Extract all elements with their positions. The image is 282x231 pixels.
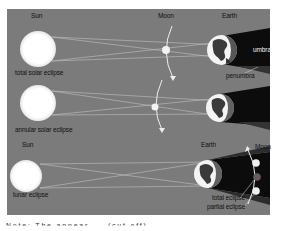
- label-umbra: umbra: [253, 46, 271, 53]
- moon-total-eclipse: [253, 173, 261, 181]
- label-sun: Sun: [31, 12, 42, 19]
- label-moon-lunar: Moon: [255, 143, 271, 150]
- sun-icon-annular: [20, 85, 56, 121]
- sun-rays-annular: [52, 91, 220, 116]
- caption-total-solar-eclipse: total solar eclipse: [15, 69, 63, 76]
- penumbra-edge-annular: [238, 122, 270, 130]
- label-moon: Moon: [158, 12, 174, 19]
- sun-icon-lunar: [10, 160, 42, 192]
- label-earth-lunar: Earth: [201, 141, 216, 148]
- earth-icon: [207, 35, 237, 65]
- moon-icon: [162, 46, 170, 54]
- moon-partial-bottom: [252, 187, 260, 195]
- label-total-eclipse: total eclipse: [212, 194, 245, 201]
- earth-icon-annular: [206, 94, 234, 122]
- label-partial-eclipse: partial eclipse: [207, 203, 245, 210]
- orbit-arrow-icon: [170, 76, 176, 81]
- sun-icon: [20, 31, 56, 67]
- caption-lunar-eclipse: lunar eclipse: [13, 191, 48, 198]
- sun-rays: [52, 37, 222, 61]
- caption-annular-solar-eclipse: annular solar eclipse: [15, 126, 73, 133]
- label-sun-lunar: Sun: [22, 141, 33, 148]
- orbit-arrow-icon-annular: [159, 128, 165, 133]
- label-penumbra: penumbra: [226, 72, 254, 79]
- earth-icon-lunar: [194, 160, 222, 188]
- label-earth: Earth: [222, 12, 237, 19]
- sun-rays-lunar: [40, 162, 208, 188]
- moon-icon-annular: [152, 104, 159, 111]
- moon-partial-top: [252, 159, 260, 167]
